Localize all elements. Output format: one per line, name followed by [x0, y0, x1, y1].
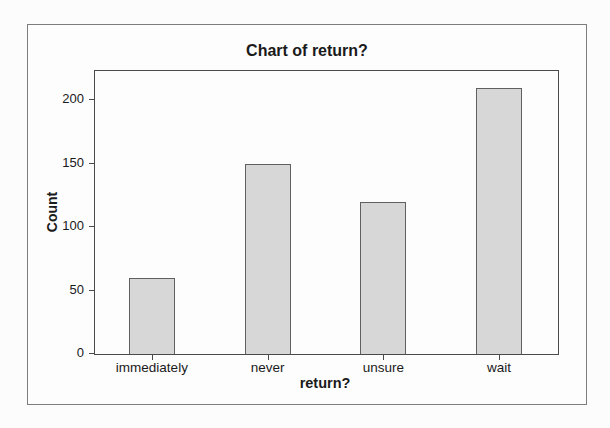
y-tick-mark: [89, 353, 94, 354]
chart-page: Chart of return? Count return? 050100150…: [0, 0, 610, 428]
y-tick-mark: [89, 163, 94, 164]
chart-title: Chart of return?: [28, 42, 586, 60]
category-label-never: never: [208, 360, 328, 376]
category-label-wait: wait: [439, 360, 559, 376]
y-tick-label: 50: [42, 282, 84, 298]
y-tick-mark: [89, 290, 94, 291]
chart-frame: Chart of return? Count return? 050100150…: [27, 24, 587, 405]
plot-area: [94, 70, 559, 355]
y-tick-label: 100: [42, 218, 84, 234]
bar-never: [245, 164, 291, 354]
y-tick-label: 150: [42, 155, 84, 171]
bar-immediately: [129, 278, 175, 354]
category-label-immediately: immediately: [92, 360, 212, 376]
category-label-unsure: unsure: [323, 360, 443, 376]
bar-wait: [476, 88, 522, 355]
y-tick-mark: [89, 226, 94, 227]
y-tick-mark: [89, 99, 94, 100]
x-axis-label: return?: [300, 375, 351, 391]
y-tick-label: 200: [42, 91, 84, 107]
y-tick-label: 0: [42, 345, 84, 361]
bar-unsure: [360, 202, 406, 354]
